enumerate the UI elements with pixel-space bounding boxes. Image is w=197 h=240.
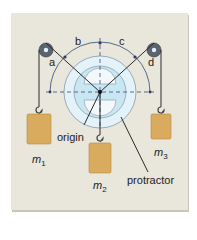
mass-2: [89, 143, 111, 173]
mass-label-1: m1: [32, 154, 46, 168]
mass-3: [151, 114, 171, 139]
mass-1: [27, 114, 51, 144]
pulley-right-icon: [147, 43, 161, 57]
mass-label-3: m3: [154, 147, 168, 161]
origin-label: origin: [57, 132, 84, 143]
angle-label-c: c: [119, 36, 125, 47]
angle-label-a: a: [49, 57, 55, 68]
protractor-label: protractor: [127, 175, 174, 186]
pulley-left-icon: [39, 43, 53, 57]
angle-label-b: b: [75, 36, 81, 47]
mass-label-2: m2: [93, 180, 107, 194]
angle-label-d: d: [148, 57, 154, 68]
origin-point: [98, 90, 102, 94]
